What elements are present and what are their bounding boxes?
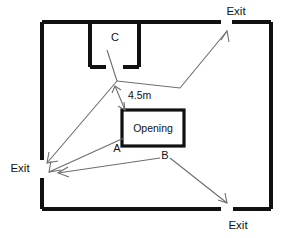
dimension-label: 4.5m bbox=[128, 89, 152, 101]
opening-box: Opening bbox=[122, 110, 184, 146]
floor-plan-diagram: Opening 4.5m bbox=[0, 0, 295, 238]
floor-plan-canvas: Opening 4.5m bbox=[0, 0, 295, 238]
zone-label-a: A bbox=[113, 142, 121, 154]
path-c-to-exit-left bbox=[47, 81, 117, 163]
zone-label-c: C bbox=[111, 31, 119, 43]
path-c-to-exit-top-right bbox=[117, 31, 227, 88]
path-b-to-exit-bottom-right bbox=[170, 158, 227, 203]
dimension-4-5m: 4.5m bbox=[112, 86, 152, 110]
alcove-c bbox=[90, 22, 139, 67]
path-b-to-exit-left bbox=[58, 158, 160, 173]
zone-label-b: B bbox=[161, 149, 168, 161]
opening-box-label: Opening bbox=[133, 122, 173, 134]
arrowhead-left-exit-lower bbox=[49, 161, 61, 172]
exit-label-left: Exit bbox=[10, 162, 30, 174]
path-c-stem bbox=[107, 50, 117, 81]
exit-label-bottom-right: Exit bbox=[228, 219, 248, 231]
exit-label-top-right: Exit bbox=[226, 5, 246, 17]
